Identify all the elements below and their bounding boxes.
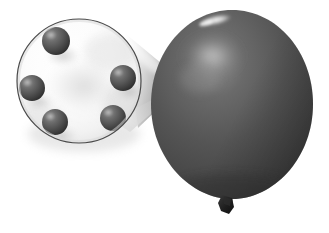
- sphere-left-body: [19, 75, 45, 101]
- sphere-right-body: [110, 65, 136, 91]
- sphere-top-highlight: [45, 31, 57, 40]
- balloon-magnification-scene: [0, 0, 329, 233]
- sphere-bottom-right-highlight: [103, 109, 114, 117]
- sphere-bottom-left-highlight: [45, 113, 56, 121]
- sphere-left-highlight: [22, 79, 33, 87]
- illustration-root: Balloon with magnified surface detail: [0, 0, 329, 233]
- sphere-right-highlight: [113, 69, 124, 77]
